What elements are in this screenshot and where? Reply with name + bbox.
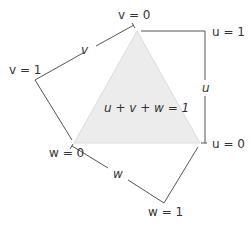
label-w-1: w = 1 — [148, 205, 183, 219]
triangle — [74, 31, 200, 143]
w-bracket — [70, 144, 198, 203]
label-v-0: v = 0 — [118, 8, 150, 22]
label-triangle-equation: u + v + w = 1 — [104, 101, 189, 115]
label-w-0: w = 0 — [49, 146, 84, 160]
label-u: u — [202, 80, 210, 96]
label-u-1: u = 1 — [212, 25, 245, 39]
label-u-0: u = 0 — [212, 137, 245, 151]
label-v: v — [81, 43, 88, 57]
label-v-1: v = 1 — [9, 63, 41, 77]
barycentric-diagram: v = 0 u = 1 v v = 1 u u + v + w = 1 u = … — [0, 0, 251, 231]
label-w: w — [113, 167, 123, 181]
